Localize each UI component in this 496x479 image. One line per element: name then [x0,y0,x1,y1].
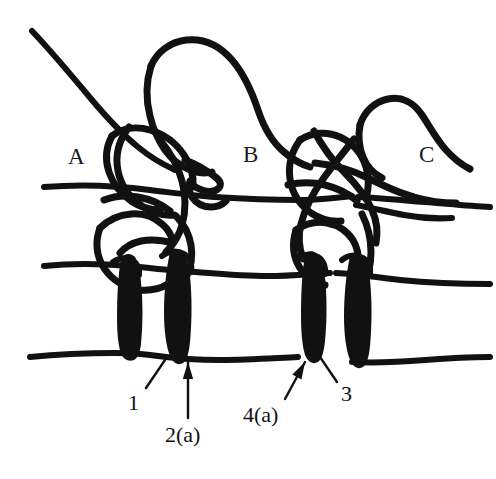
callout-label-4a: 4(a) [243,404,278,426]
callout-label-2a: 2(a) [165,424,200,446]
figure-root: ABC 12(a)34(a) [0,0,496,479]
callout-label-1: 1 [128,392,139,414]
callout-label-3: 3 [341,383,352,405]
region-label-a: A [68,145,85,168]
region-label-b: B [243,143,258,166]
region-label-c: C [419,143,434,166]
